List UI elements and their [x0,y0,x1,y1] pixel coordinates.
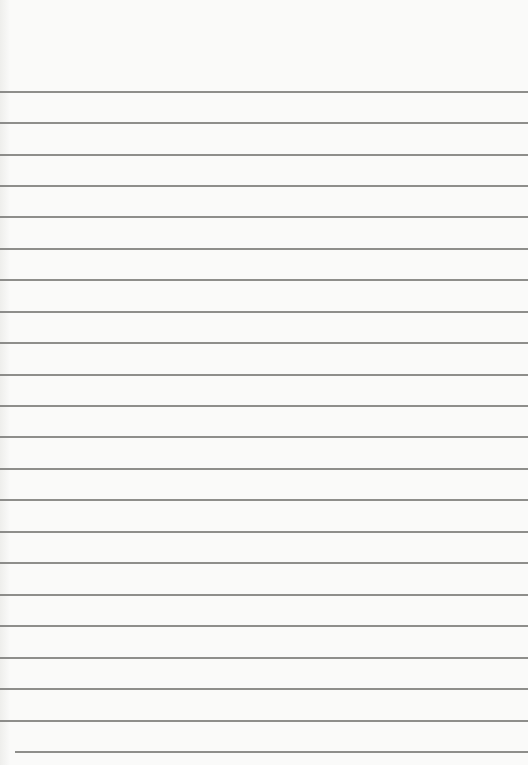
ruled-line [0,436,528,438]
ruled-line [0,279,528,281]
ruled-line [0,625,528,627]
ruled-line [0,311,528,313]
ruled-line [0,594,528,596]
ruled-line [0,122,528,124]
ruled-line [0,185,528,187]
ruled-line [0,154,528,156]
lined-paper-page [0,0,528,765]
ruled-line [0,688,528,690]
ruled-line [0,91,528,93]
ruled-line [0,499,528,501]
ruled-line [0,374,528,376]
ruled-line [0,468,528,470]
ruled-line [0,216,528,218]
ruled-line [15,751,528,753]
ruled-line [0,531,528,533]
ruled-line [0,562,528,564]
ruled-line [0,657,528,659]
ruled-line [0,248,528,250]
ruled-line [0,720,528,722]
ruled-line [0,342,528,344]
ruled-line [0,405,528,407]
